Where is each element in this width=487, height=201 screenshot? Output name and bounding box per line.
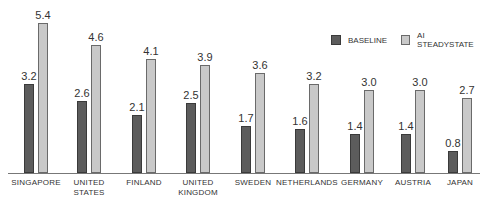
legend-item-baseline: BASELINE: [331, 35, 387, 45]
bar-value-label: 2.7: [452, 84, 482, 96]
bar-baseline: [295, 129, 305, 173]
bar-ai-steadystate: [38, 23, 48, 173]
bar-baseline: [24, 84, 34, 173]
bar-baseline: [186, 103, 196, 173]
bar-ai-steadystate: [91, 45, 101, 173]
bar-ai-steadystate: [462, 98, 472, 173]
bar-baseline: [77, 101, 87, 173]
legend-item-ai-steadystate: AI STEADYSTATE: [401, 31, 475, 49]
bar-ai-steadystate: [146, 59, 156, 173]
bar-ai-steadystate: [364, 90, 374, 173]
bar-chart: 3.25.4SINGAPORE2.64.6UNITEDSTATES2.14.1F…: [0, 0, 487, 201]
bar-value-label: 3.0: [354, 76, 384, 88]
bar-value-label: 3.6: [245, 59, 275, 71]
bar-value-label: 3.2: [299, 70, 329, 82]
bar-value-label: 4.6: [81, 31, 111, 43]
bar-ai-steadystate: [200, 65, 210, 173]
legend-label-ai-steadystate: AI STEADYSTATE: [417, 31, 475, 49]
legend-swatch-ai-steadystate: [401, 35, 410, 45]
bar-baseline: [241, 126, 251, 173]
bar-baseline: [401, 134, 411, 173]
legend: BASELINE AI STEADYSTATE: [331, 31, 487, 49]
bar-value-label: 5.4: [28, 9, 58, 21]
bar-value-label: 4.1: [136, 45, 166, 57]
legend-swatch-baseline: [331, 35, 341, 45]
bar-ai-steadystate: [415, 90, 425, 173]
legend-label-baseline: BASELINE: [348, 36, 387, 45]
bar-value-label: 3.9: [190, 51, 220, 63]
bar-baseline: [132, 115, 142, 173]
bar-value-label: 3.0: [405, 76, 435, 88]
bar-baseline: [350, 134, 360, 173]
bar-ai-steadystate: [255, 73, 265, 173]
bar-baseline: [448, 151, 458, 173]
x-axis-line: [8, 173, 480, 174]
bar-ai-steadystate: [309, 84, 319, 173]
category-label: JAPAN: [425, 178, 487, 188]
